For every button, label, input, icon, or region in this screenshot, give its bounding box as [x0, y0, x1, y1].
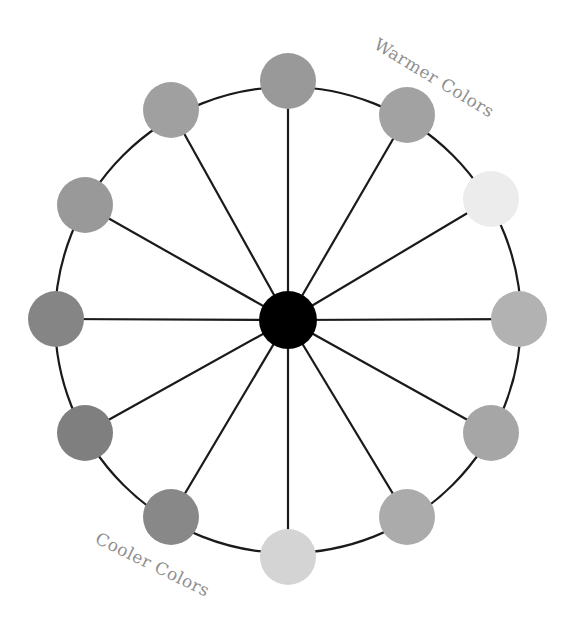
color-node-6: [260, 529, 316, 585]
color-node-8: [57, 405, 113, 461]
color-node-11: [143, 82, 199, 138]
color-node-7: [143, 489, 199, 545]
spoke-line: [85, 320, 288, 433]
center-hub: [259, 291, 317, 349]
spoke-line: [85, 205, 288, 320]
spoke-line: [288, 319, 519, 320]
spoke-line: [56, 319, 288, 320]
spoke-line: [288, 115, 407, 320]
color-node-3: [491, 291, 547, 347]
spoke-line: [288, 320, 407, 517]
spoke-line: [171, 110, 288, 320]
color-wheel-diagram: [0, 0, 571, 622]
spoke-line: [171, 320, 288, 517]
color-node-9: [28, 291, 84, 347]
color-node-0: [260, 53, 316, 109]
color-node-2: [463, 171, 519, 227]
color-node-1: [379, 87, 435, 143]
color-node-10: [57, 177, 113, 233]
spoke-line: [288, 320, 491, 433]
color-node-5: [379, 489, 435, 545]
color-node-4: [463, 405, 519, 461]
spoke-line: [288, 199, 491, 320]
